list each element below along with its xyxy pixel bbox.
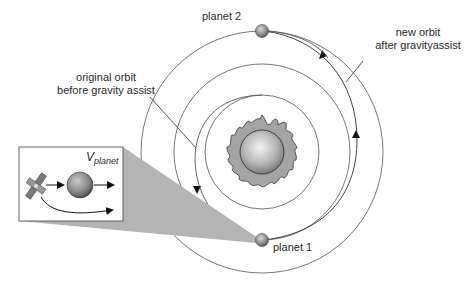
new-orbit-label-line2: after gravityassist <box>368 39 468 52</box>
planet1-icon <box>256 234 269 247</box>
velocity-subscript: planet <box>94 156 119 166</box>
new-orbit-label: new orbit after gravityassist <box>368 26 468 52</box>
new-orbit-pointer <box>346 61 363 82</box>
planet2-label: planet 2 <box>202 10 241 23</box>
original-orbit-label-line2: before gravity assist <box>46 84 166 97</box>
original-orbit-arrow-icon <box>193 186 201 194</box>
sun-icon <box>227 115 297 187</box>
original-orbit-pointer <box>150 97 196 148</box>
velocity-symbol: V <box>86 150 94 164</box>
new-orbit-arrow-icon <box>352 130 360 138</box>
original-orbit-label-line1: original orbit <box>46 71 166 84</box>
flyby-planet-icon <box>67 172 93 198</box>
planet1-label: planet 1 <box>273 241 312 254</box>
original-orbit-label: original orbit before gravity assist <box>46 71 166 97</box>
new-orbit-label-line1: new orbit <box>368 26 468 39</box>
velocity-label: Vplanet <box>86 150 119 166</box>
planet2-icon <box>256 25 269 38</box>
gravity-assist-diagram: planet 2 planet 1 new orbit after gravit… <box>0 0 468 283</box>
